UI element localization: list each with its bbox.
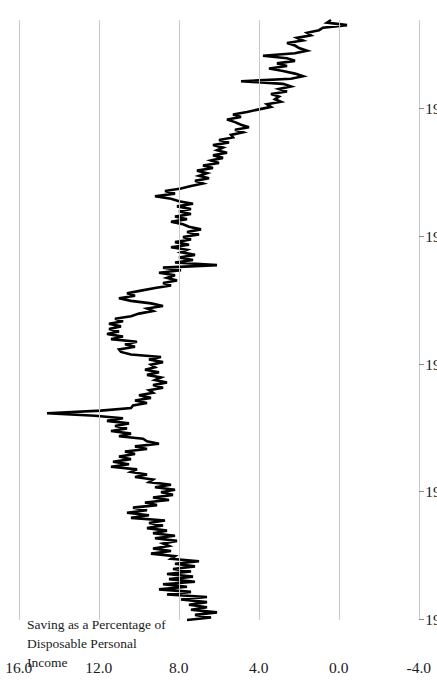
tick-mark-year-1989 [419, 236, 424, 237]
value-axis-label--4.0: -4.0 [389, 660, 437, 676]
series-line-personal-saving-rate [19, 20, 419, 620]
tick-mark-year-1999 [419, 108, 424, 109]
tick-mark-year-1969 [419, 491, 424, 492]
chart-title-line-2: Disposable Personal [27, 634, 166, 653]
tick-mark-year-1979 [419, 364, 424, 365]
gridline-value--4.0 [419, 20, 420, 620]
gridline-value-8.0 [179, 20, 180, 620]
gridline-value-12.0 [99, 20, 100, 620]
value-axis-label-0.0: 0.0 [309, 660, 369, 676]
gridline-value-4.0 [259, 20, 260, 620]
gridline-value-0.0 [339, 20, 340, 620]
gridline-value-16.0 [19, 20, 20, 620]
plot-area [19, 20, 419, 620]
chart-title-line-1: Saving as a Percentage of [27, 615, 166, 634]
rotated-chart-stage: 16.012.08.04.00.0-4.0 195919691979198919… [0, 0, 437, 687]
chart-title: Saving as a Percentage of Disposable Per… [27, 615, 166, 672]
chart-title-line-3: Income [27, 653, 166, 672]
value-axis-label-4.0: 4.0 [229, 660, 289, 676]
tick-mark-year-1959 [419, 619, 424, 620]
